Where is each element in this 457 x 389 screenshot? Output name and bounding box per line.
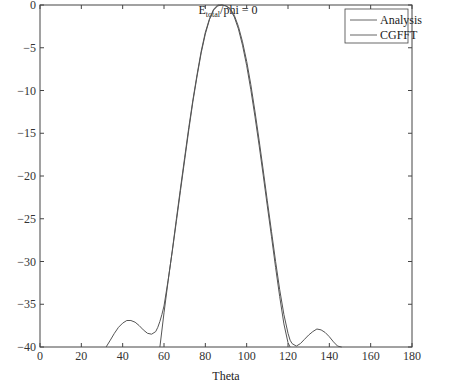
x-tick-label: 140 <box>320 349 338 363</box>
x-tick-label: 40 <box>117 349 129 363</box>
y-tick-label: −35 <box>17 297 36 311</box>
x-tick-label: 120 <box>279 349 297 363</box>
y-tick-label: −10 <box>17 84 36 98</box>
x-axis-label: Theta <box>212 369 240 383</box>
axis-tick-labels: 0204060801001201401601800−5−10−15−20−25−… <box>17 0 421 363</box>
series-line-analysis <box>106 5 342 347</box>
chart: Etotal/phi = 0 0204060801001201401601800… <box>0 0 457 389</box>
axis-ticks <box>40 5 412 347</box>
plot-area <box>40 5 412 347</box>
x-tick-label: 80 <box>199 349 211 363</box>
x-tick-label: 0 <box>37 349 43 363</box>
y-tick-label: 0 <box>30 0 36 12</box>
y-tick-label: −5 <box>23 41 36 55</box>
series-line-cgfft <box>160 5 290 347</box>
y-tick-label: −20 <box>17 169 36 183</box>
y-tick-label: −15 <box>17 126 36 140</box>
legend-label-analysis: Analysis <box>380 13 422 27</box>
x-tick-label: 180 <box>403 349 421 363</box>
x-tick-label: 60 <box>158 349 170 363</box>
y-tick-label: −25 <box>17 212 36 226</box>
legend-label-cgfft: CGFFT <box>380 28 418 42</box>
x-tick-label: 160 <box>362 349 380 363</box>
y-tick-label: −40 <box>17 340 36 354</box>
x-tick-label: 20 <box>75 349 87 363</box>
legend: Analysis CGFFT <box>345 9 422 43</box>
series-lines <box>106 5 342 347</box>
x-tick-label: 100 <box>238 349 256 363</box>
y-tick-label: −30 <box>17 255 36 269</box>
